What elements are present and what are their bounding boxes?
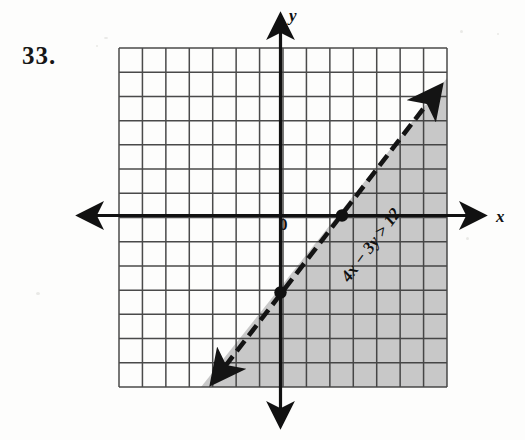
coordinate-plane-graph: x y 0 4x − 3y > 12 xyxy=(0,0,525,440)
x-axis-label: x xyxy=(495,207,505,226)
y-axis-label: y xyxy=(287,6,297,25)
worksheet-page: 33. xyxy=(0,0,525,440)
x-intercept-point xyxy=(336,209,348,221)
y-intercept-point xyxy=(274,286,286,298)
origin-label: 0 xyxy=(279,215,288,234)
